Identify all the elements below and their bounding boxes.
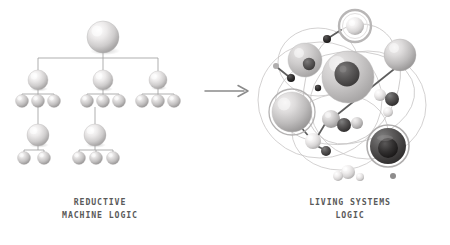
tree-node-root xyxy=(87,21,119,53)
mid-node-cluster xyxy=(322,110,363,132)
sphere-ring-top xyxy=(339,10,371,42)
nucleus xyxy=(335,62,360,87)
tree-node-branch xyxy=(149,71,167,89)
left-panel-caption: REDUCTIVE MACHINE LOGIC xyxy=(0,196,200,222)
network-cluster-diagram xyxy=(250,0,450,190)
tree-node-branch xyxy=(27,124,49,146)
living-systems-logic-panel: LIVING SYSTEMS LOGIC xyxy=(250,0,450,245)
right-panel-caption: LIVING SYSTEMS LOGIC xyxy=(250,196,450,222)
cell-upper-right xyxy=(384,39,416,71)
tree-diagram xyxy=(0,0,200,190)
cell-ringed-left xyxy=(269,89,315,135)
tree-node-branch xyxy=(28,70,48,90)
tree-node-branch xyxy=(93,70,113,90)
cell-center xyxy=(322,51,374,103)
cell-dark-right xyxy=(367,125,409,167)
tree-leaf-row xyxy=(16,95,181,108)
transition-arrow-container xyxy=(198,78,254,104)
tree-leaf-row xyxy=(18,152,120,165)
cell-upper-left xyxy=(288,43,322,77)
right-arrow-icon xyxy=(198,78,254,104)
nucleus xyxy=(303,58,315,70)
nucleus xyxy=(378,138,398,158)
right-satellite-nodes xyxy=(374,89,399,117)
tree-node-branch xyxy=(84,124,106,146)
reductive-machine-logic-panel: REDUCTIVE MACHINE LOGIC xyxy=(0,0,200,245)
tree-node-group xyxy=(16,21,181,165)
diagram-figure: REDUCTIVE MACHINE LOGIC xyxy=(0,0,450,245)
